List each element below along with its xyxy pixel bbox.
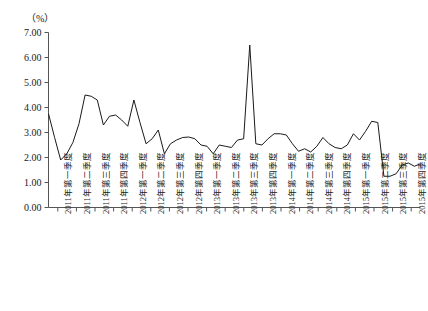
chart-container: （%） 0.001.002.003.004.005.006.007.00 201… bbox=[0, 0, 428, 311]
y-axis-tick-label: 1.00 bbox=[24, 177, 42, 188]
y-axis-tick-label: 4.00 bbox=[24, 102, 42, 113]
y-axis-tick-label: 2.00 bbox=[24, 152, 42, 163]
y-axis-tick-label: 5.00 bbox=[24, 77, 42, 88]
data-series-line bbox=[49, 45, 421, 176]
y-axis-tick-label: 6.00 bbox=[24, 52, 42, 63]
y-axis-tick-label: 3.00 bbox=[24, 127, 42, 138]
y-axis-tick-label: 0.00 bbox=[24, 202, 42, 213]
y-axis-tick-label: 7.00 bbox=[24, 27, 42, 38]
line-chart-plot: 0.001.002.003.004.005.006.007.00 bbox=[0, 0, 428, 311]
